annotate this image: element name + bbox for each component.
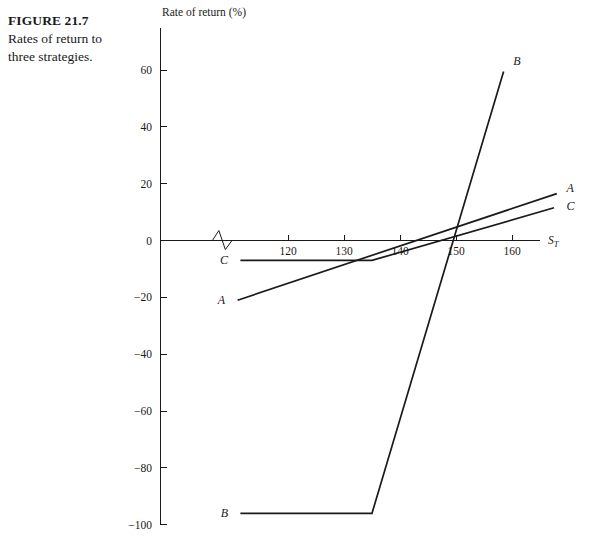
series-label-c-right: C bbox=[566, 199, 575, 213]
series-label-b-right: B bbox=[513, 54, 521, 68]
x-axis-title-subscript: T bbox=[554, 239, 560, 249]
series-label-a-right: A bbox=[565, 181, 574, 195]
chart-plot-area: 6040200−20−40−60−80−100 120130140150160 … bbox=[0, 0, 593, 537]
x-tick-label: 120 bbox=[279, 245, 297, 257]
y-tick-label: −20 bbox=[134, 291, 152, 303]
y-tick-label: −100 bbox=[128, 519, 152, 531]
series-label-a-left: A bbox=[217, 293, 226, 307]
rates-of-return-chart: 6040200−20−40−60−80−100 120130140150160 … bbox=[0, 0, 593, 537]
figure-root: FIGURE 21.7 Rates of return to three str… bbox=[0, 0, 593, 537]
x-tick-label: 160 bbox=[503, 245, 521, 257]
series-label-c-left: C bbox=[220, 253, 229, 267]
series-lines bbox=[238, 71, 557, 513]
series-label-b-left: B bbox=[221, 506, 229, 520]
y-tick-label: −60 bbox=[134, 405, 152, 417]
y-tick-label: 20 bbox=[141, 178, 153, 190]
x-tick-label: 130 bbox=[335, 245, 353, 257]
y-tick-label: 0 bbox=[146, 235, 152, 247]
series-line-b bbox=[240, 71, 503, 513]
y-tick-label: −40 bbox=[134, 348, 152, 360]
y-tick-label: 60 bbox=[141, 64, 153, 76]
series-endpoint-labels: ABCACB bbox=[217, 54, 576, 520]
y-tick-label: 40 bbox=[141, 121, 153, 133]
x-axis-title: ST bbox=[548, 234, 560, 249]
y-axis-ticks: 6040200−20−40−60−80−100 bbox=[128, 64, 167, 531]
y-tick-label: −80 bbox=[134, 462, 152, 474]
y-axis-title: Rate of return (%) bbox=[162, 6, 246, 19]
